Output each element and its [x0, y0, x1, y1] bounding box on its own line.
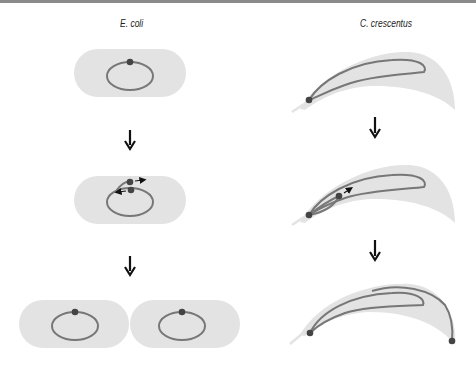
- ecoli-cell-2: [74, 176, 186, 224]
- down-arrow-icon: [125, 256, 135, 275]
- down-arrow-icon: [370, 117, 380, 137]
- ecoli-daughter-cells: [19, 300, 240, 348]
- down-arrow-icon: [125, 130, 135, 149]
- origin-dot: [127, 179, 134, 186]
- ccrescentus-cell-1: [292, 52, 455, 112]
- ecoli-cell-1: [74, 49, 186, 97]
- down-arrow-icon: [370, 240, 380, 260]
- origin-dot: [127, 59, 134, 66]
- origin-dot: [128, 187, 135, 194]
- ccrescentus-cell-3: [290, 284, 455, 345]
- diagram: [0, 0, 476, 367]
- ccrescentus-cell-2: [292, 165, 455, 225]
